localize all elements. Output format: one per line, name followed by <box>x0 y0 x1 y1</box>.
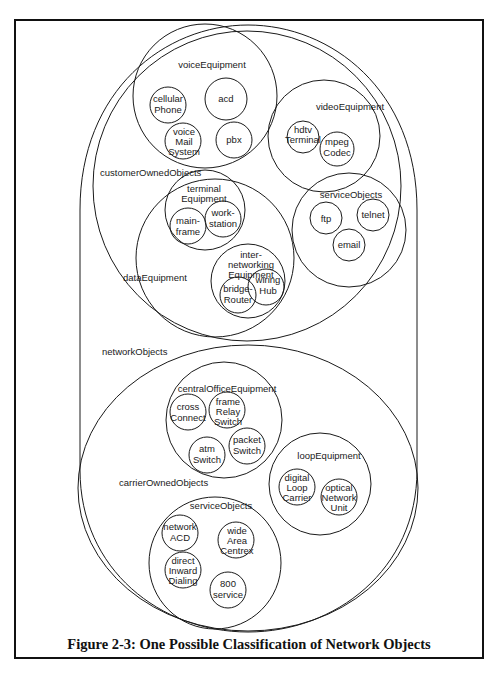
packet-switch-label-1: packet <box>233 434 261 445</box>
network-acd-label-1: network <box>163 521 197 532</box>
packet-switch-label-2: Switch <box>233 445 261 456</box>
network-objects-boundary <box>80 25 417 632</box>
carrier-owned-objects-label: carrierOwnedObjects <box>119 477 208 488</box>
hdtv-terminal-label-2: Terminal <box>285 134 321 145</box>
pbx-label: pbx <box>226 134 242 145</box>
mpeg-codec-label-1: mpeg <box>325 136 349 147</box>
email-label: email <box>338 239 361 250</box>
data-equipment-label: dataEquipment <box>123 272 187 283</box>
figure-frame <box>15 20 483 658</box>
customer-owned-objects-label: customerOwnedObjects <box>100 167 202 178</box>
classification-diagram: networkObjects customerOwnedObjects voic… <box>0 0 495 675</box>
data-equipment-group: dataEquipment terminal Equipment main- f… <box>123 170 294 337</box>
atm-switch-label-1: atm <box>199 443 215 454</box>
cellular-phone-label-1: cellular <box>153 93 183 104</box>
cross-connect-label-2: Connect <box>170 412 206 423</box>
digital-loop-carrier-label-3: Carrier <box>282 492 311 503</box>
terminal-equipment-label-2: Equipment <box>181 193 227 204</box>
wide-area-centrex-label-3: Centrex <box>220 545 254 556</box>
frame-relay-switch-label-3: Switch <box>214 416 242 427</box>
central-office-equipment-group: centralOfficeEquipment cross Connect fra… <box>166 362 282 478</box>
800-service-label-2: service <box>213 589 243 600</box>
video-equipment-group: videoEquipment hdtv Terminal mpeg Codec <box>268 80 384 192</box>
voice-mail-system-label-3: System <box>168 146 200 157</box>
carrier-service-objects-label: serviceObjects <box>190 500 253 511</box>
customer-service-objects-label: serviceObjects <box>320 189 383 200</box>
workstation-label-1: work- <box>210 207 234 218</box>
direct-inward-dialing-label-3: Dialing <box>168 575 197 586</box>
atm-switch-label-2: Switch <box>193 454 221 465</box>
optical-network-unit-label-3: Unit <box>331 502 348 513</box>
mpeg-codec-label-2: Codec <box>323 147 351 158</box>
mainframe-label-2: frame <box>176 226 200 237</box>
wiring-hub-label-2: Hub <box>259 285 276 296</box>
voice-equipment-group: voiceEquipment cellular Phone acd voice … <box>133 24 277 168</box>
mainframe-label-1: main- <box>176 215 200 226</box>
bridge-router-label-2: Router <box>224 294 253 305</box>
acd-label: acd <box>218 93 233 104</box>
telnet-label: telnet <box>361 209 385 220</box>
wiring-hub-label-1: wiring <box>255 274 281 285</box>
cross-connect-label-1: cross <box>177 401 200 412</box>
cellular-phone-label-2: Phone <box>154 104 181 115</box>
carrier-service-objects-group: serviceObjects network ACD wide Area Cen… <box>149 497 281 629</box>
network-objects-label: networkObjects <box>102 346 168 357</box>
video-equipment-label: videoEquipment <box>316 101 384 112</box>
loop-equipment-group: loopEquipment digital Loop Carrier optic… <box>269 433 371 535</box>
carrier-service-objects-boundary <box>149 497 281 629</box>
ftp-label: ftp <box>321 213 332 224</box>
figure-caption: Figure 2-3: One Possible Classification … <box>15 636 483 653</box>
800-service-label-1: 800 <box>220 578 236 589</box>
workstation-label-2: station <box>209 218 237 229</box>
loop-equipment-label: loopEquipment <box>297 450 361 461</box>
loop-equipment-boundary <box>269 433 371 535</box>
figure: networkObjects customerOwnedObjects voic… <box>0 0 495 675</box>
network-acd-label-2: ACD <box>170 532 190 543</box>
voice-equipment-label: voiceEquipment <box>178 59 246 70</box>
